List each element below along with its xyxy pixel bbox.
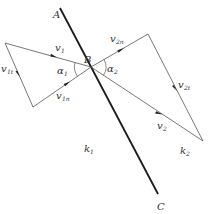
arrow-v1-icon (51, 54, 58, 58)
svg-text:2: 2 (185, 150, 190, 157)
label-k1: k 1 (84, 143, 94, 155)
angle-arc-alpha1 (74, 63, 77, 77)
label-v2t: v 2t (178, 79, 191, 91)
label-v2n: v 2n (110, 33, 124, 45)
refraction-diagram: A C B v 1 v 1t v 1n v 2n v 2t v 2 α (0, 0, 215, 214)
svg-text:1: 1 (61, 47, 65, 54)
label-k2: k 2 (180, 145, 190, 157)
svg-text:α: α (57, 65, 64, 76)
diagram-svg: A C B v 1 v 1t v 1n v 2n v 2t v 2 α (0, 0, 215, 214)
label-v2: v 2 (157, 120, 167, 132)
svg-text:2t: 2t (183, 84, 191, 91)
label-alpha2: α 2 (107, 63, 118, 75)
label-A: A (52, 9, 60, 20)
angle-arc-alpha2 (104, 60, 106, 76)
svg-text:1: 1 (64, 70, 68, 77)
arrow-v2n-icon (117, 48, 124, 53)
svg-text:2: 2 (162, 125, 167, 132)
label-v1: v 1 (55, 42, 65, 54)
label-v1t: v 1t (1, 63, 14, 75)
vector-v1 (5, 43, 91, 67)
svg-text:1: 1 (90, 148, 94, 155)
svg-text:1n: 1n (62, 95, 70, 102)
label-C: C (157, 201, 165, 212)
label-v1n: v 1n (56, 90, 70, 102)
svg-text:2n: 2n (115, 38, 124, 45)
svg-text:2: 2 (113, 68, 118, 75)
label-alpha1: α 1 (57, 65, 68, 77)
svg-text:α: α (107, 63, 114, 74)
label-B: B (83, 54, 91, 65)
svg-text:1t: 1t (7, 68, 14, 75)
boundary-line (60, 8, 158, 194)
vector-v2 (91, 67, 203, 141)
